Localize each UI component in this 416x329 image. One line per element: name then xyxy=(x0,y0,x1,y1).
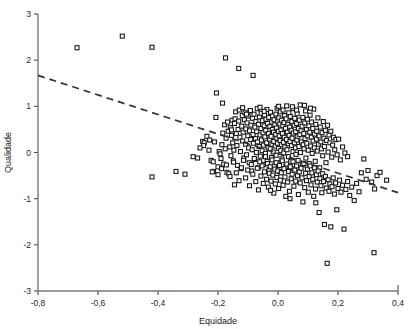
data-point xyxy=(310,120,314,124)
data-point xyxy=(268,165,272,169)
data-point xyxy=(221,101,225,105)
data-point xyxy=(273,182,277,186)
data-point xyxy=(219,157,223,161)
data-point xyxy=(325,261,329,265)
data-point xyxy=(322,180,326,184)
data-point xyxy=(255,166,259,170)
data-point xyxy=(294,179,298,183)
data-point xyxy=(239,166,243,170)
data-point xyxy=(318,125,322,129)
data-point xyxy=(237,66,241,70)
data-point xyxy=(226,120,230,124)
data-point xyxy=(251,73,255,77)
data-point xyxy=(260,164,264,168)
x-axis-title: Equidade xyxy=(199,316,237,326)
data-point xyxy=(323,223,327,227)
y-tick-label: -3 xyxy=(23,286,31,296)
data-point xyxy=(229,154,233,158)
data-point xyxy=(233,121,237,125)
data-point xyxy=(258,105,262,109)
data-points xyxy=(75,34,389,265)
data-point xyxy=(298,181,302,185)
data-point xyxy=(344,187,348,191)
data-point xyxy=(293,116,297,120)
data-point xyxy=(332,192,336,196)
data-point xyxy=(304,156,308,160)
data-point xyxy=(321,154,325,158)
data-point xyxy=(228,175,232,179)
data-point xyxy=(316,169,320,173)
data-point xyxy=(265,177,269,181)
data-point xyxy=(284,194,288,198)
data-point xyxy=(258,160,262,164)
data-point xyxy=(378,170,382,174)
data-point xyxy=(335,208,339,212)
data-point xyxy=(261,181,265,185)
data-point xyxy=(224,163,228,167)
y-tick-label: 1 xyxy=(26,101,31,111)
y-axis-title: Qualidade xyxy=(3,132,13,173)
x-tick-label: -0,4 xyxy=(151,298,166,308)
plot-canvas: -0,8-0,6-0,4-0,20,00,20,4 3210-1-2-3 Equ… xyxy=(0,0,416,329)
data-point xyxy=(331,176,335,180)
data-point xyxy=(257,188,261,192)
data-point xyxy=(350,185,354,189)
x-tick-label: -0,6 xyxy=(91,298,106,308)
data-point xyxy=(348,193,352,197)
data-point xyxy=(341,183,345,187)
data-point xyxy=(278,163,282,167)
data-point xyxy=(295,108,299,112)
data-point xyxy=(316,116,320,120)
data-point xyxy=(263,155,267,159)
data-point xyxy=(258,154,262,158)
data-point xyxy=(214,115,218,119)
data-point xyxy=(339,190,343,194)
data-point xyxy=(218,152,222,156)
data-point xyxy=(240,124,244,128)
y-tick-label: 0 xyxy=(26,148,31,158)
data-point xyxy=(232,160,236,164)
data-point xyxy=(285,104,289,108)
data-point xyxy=(150,45,154,49)
data-point xyxy=(210,170,214,174)
data-point xyxy=(220,167,224,171)
data-point xyxy=(259,174,263,178)
data-point xyxy=(313,159,317,163)
data-point xyxy=(293,168,297,172)
data-point xyxy=(341,145,345,149)
x-tick-label: 0,4 xyxy=(392,298,404,308)
data-point xyxy=(239,150,243,154)
data-point xyxy=(285,148,289,152)
data-point xyxy=(230,133,234,137)
data-point xyxy=(281,108,285,112)
data-point xyxy=(314,187,318,191)
data-point xyxy=(319,184,323,188)
data-point xyxy=(245,153,249,157)
data-point xyxy=(235,144,239,148)
data-point xyxy=(294,152,298,156)
data-point xyxy=(263,170,267,174)
data-point xyxy=(75,46,79,50)
y-tick-label: 3 xyxy=(26,9,31,19)
data-point xyxy=(314,122,318,126)
data-point xyxy=(262,109,266,113)
data-point xyxy=(306,190,310,194)
data-point xyxy=(211,160,215,164)
x-tick-label: 0,0 xyxy=(272,298,284,308)
data-point xyxy=(232,148,236,152)
data-point xyxy=(301,115,305,119)
data-point xyxy=(327,189,331,193)
data-point xyxy=(346,180,350,184)
plot-area: -0,8-0,6-0,4-0,20,00,20,4 3210-1-2-3 Equ… xyxy=(3,9,404,326)
data-point xyxy=(342,227,346,231)
data-point xyxy=(299,166,303,170)
data-point xyxy=(281,183,285,187)
data-point xyxy=(231,141,235,145)
data-point xyxy=(244,176,248,180)
data-point xyxy=(296,158,300,162)
data-point xyxy=(246,168,250,172)
data-point xyxy=(372,251,376,255)
data-point xyxy=(207,148,211,152)
data-point xyxy=(290,172,294,176)
data-point xyxy=(215,91,219,95)
